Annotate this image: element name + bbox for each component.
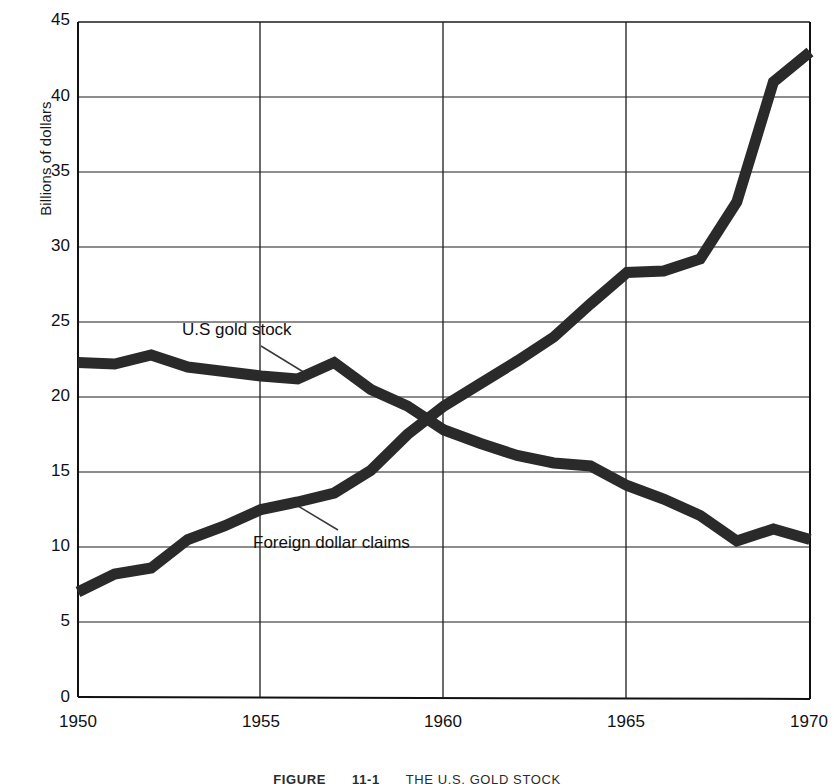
figure-container: Billions of dollars 45 40 35 30 25 20 15… bbox=[0, 0, 834, 784]
chart-plot-area bbox=[0, 0, 834, 784]
vertical-gridlines bbox=[78, 22, 810, 699]
figure-caption-word: FIGURE bbox=[273, 772, 326, 784]
series-label-us-gold-stock: U.S gold stock bbox=[182, 320, 292, 340]
figure-caption: FIGURE11-1THE U.S. GOLD STOCK bbox=[0, 772, 834, 784]
figure-caption-number: 11-1 bbox=[352, 772, 380, 784]
horizontal-gridlines bbox=[78, 22, 810, 699]
figure-caption-title: THE U.S. GOLD STOCK bbox=[406, 772, 561, 784]
series-label-foreign-dollar-claims: Foreign dollar claims bbox=[253, 533, 410, 553]
series-line-us-gold-stock bbox=[78, 355, 810, 541]
